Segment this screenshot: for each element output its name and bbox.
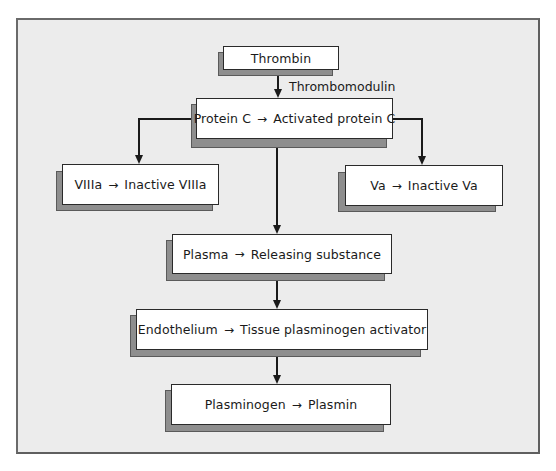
right-arrow-icon: → [224,323,234,337]
node-box: VIIIa → Inactive VIIIa [62,164,219,205]
right-arrow-icon: → [392,179,402,193]
arrowhead-icon [273,375,281,384]
edge-line [138,118,191,120]
edge-line [393,118,422,120]
node-text-left: Va [370,178,385,193]
node-text-right: Tissue plasminogen activator [240,322,426,337]
edge-label-thrombomodulin: Thrombomodulin [289,79,395,94]
node-box: Endothelium → Tissue plasminogen activat… [136,309,428,350]
right-arrow-icon: → [108,178,118,192]
arrowhead-icon [418,156,426,165]
node-text: Thrombin [251,51,311,66]
node-text-left: VIIIa [74,177,102,192]
node-text-left: Plasminogen [205,397,286,412]
edge-line [276,357,278,376]
arrowhead-icon [135,155,143,164]
node-text-right: Releasing substance [251,247,381,262]
arrowhead-icon [273,300,281,309]
node-text-left: Plasma [183,247,229,262]
edge-line [277,76,279,90]
node-box: Plasma → Releasing substance [172,234,392,274]
node-box: Va → Inactive Va [345,165,503,206]
node-text-right: Inactive Va [408,178,478,193]
right-arrow-icon: → [257,112,267,126]
edge-line [421,118,423,157]
node-box: Plasminogen → Plasmin [171,384,391,425]
edge-line [276,281,278,301]
node-box: Protein C → Activated protein C [196,98,393,139]
node-text-right: Inactive VIIIa [124,177,206,192]
edge-line [276,148,278,226]
node-text-right: Plasmin [308,397,357,412]
node-box: Thrombin [223,46,339,70]
edge-line [138,118,140,156]
arrowhead-icon [274,89,282,98]
node-text-left: Protein C [194,111,251,126]
right-arrow-icon: → [235,247,245,261]
arrowhead-icon [273,225,281,234]
right-arrow-icon: → [292,398,302,412]
node-text-right: Activated protein C [273,111,395,126]
node-text-left: Endothelium [138,322,218,337]
